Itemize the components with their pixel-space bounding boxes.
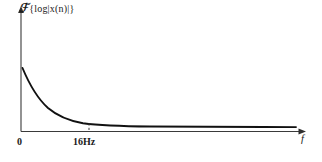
y-axis-label: ℱ{log|x(n)|} [19,2,74,15]
plot-canvas [0,0,322,162]
fourier-transform-symbol: ℱ [19,1,29,15]
spectrum-figure: ℱ{log|x(n)|} 0 16Hz f [0,0,322,162]
x-tick-label-frequency: 16Hz [73,137,95,147]
x-tick-label-zero: 0 [17,137,22,147]
x-axis-label: f [301,134,304,145]
decay-curve [23,68,297,127]
y-axis-expression: {log|x(n)|} [29,3,74,14]
x-axis [21,128,306,134]
